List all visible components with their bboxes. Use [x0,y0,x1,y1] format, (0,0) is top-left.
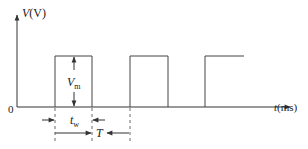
period-label: T [96,126,104,140]
pulse-width-label: tw [70,113,79,129]
origin-label: 0 [8,103,14,115]
pulse-2 [130,56,168,107]
amplitude-label: Vm [67,75,81,91]
x-axis-label: t(ms) [274,101,298,114]
pulse-waveform-diagram: V(V) t(ms) 0 Vm tw T [0,0,308,149]
pulse-3 [205,56,244,107]
y-axis-label: V(V) [22,6,46,20]
